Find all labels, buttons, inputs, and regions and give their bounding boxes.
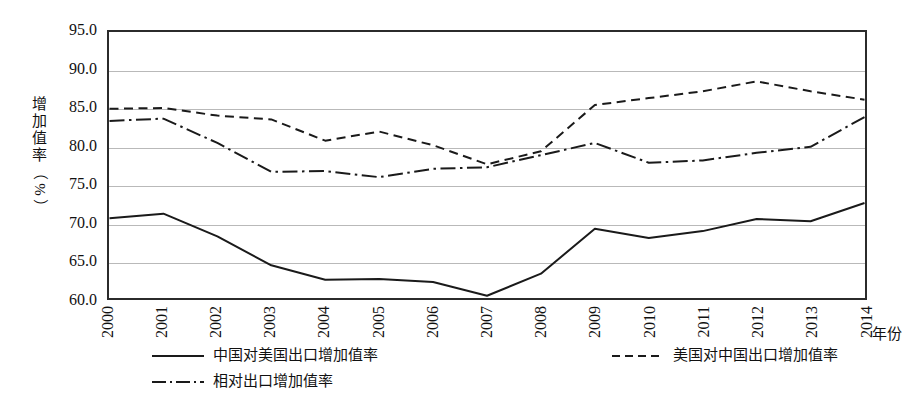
y-axis-tick-label: 90.0 [35,61,97,77]
x-axis-tick-label: 2007 [479,306,495,338]
x-axis-tick-label: 2000 [100,306,116,338]
series-line-1 [109,81,864,164]
x-axis-tick-label: 2003 [262,306,278,338]
legend-label: 中国对美国出口增加值率 [213,348,378,363]
series-line-2 [109,117,864,177]
legend-line-dashed-icon [610,349,666,363]
y-axis-tick-label: 70.0 [35,215,97,231]
y-axis-tick-label: 95.0 [35,22,97,38]
legend-item-china-to-us: 中国对美国出口增加值率 [150,348,378,363]
legend-row: 美国对中国出口增加值率 [610,348,838,363]
y-axis-tick-label: 75.0 [35,176,97,192]
y-axis-tick-label: 80.0 [35,138,97,154]
y-axis-tick-label: 65.0 [35,253,97,269]
x-axis-title: 年份 [872,322,902,343]
x-axis-tick-label: 2010 [642,306,658,338]
x-axis-tick-label: 2013 [804,306,820,338]
chart-legend: 中国对美国出口增加值率 美国对中国出口增加值率 相对出口增加值率 [150,348,790,404]
legend-row: 中国对美国出口增加值率 [150,348,378,363]
x-axis-tick-label: 2009 [587,306,603,338]
series-line-0 [109,203,864,296]
legend-label: 相对出口增加值率 [213,374,333,389]
legend-row: 相对出口增加值率 [150,374,333,389]
series-lines [109,32,865,298]
x-axis-tick-label: 2008 [533,306,549,338]
x-axis-tick-label: 2002 [208,306,224,338]
x-axis-tick-label: 2006 [425,306,441,338]
legend-label: 美国对中国出口增加值率 [673,348,838,363]
y-axis-tick-label: 60.0 [35,292,97,308]
plot-area [107,30,867,300]
x-axis-tick-label: 2012 [750,306,766,338]
y-axis-tick-labels: 95.090.085.080.075.070.065.060.0 [35,0,97,413]
legend-line-solid-icon [150,349,206,363]
y-axis-tick-label: 85.0 [35,99,97,115]
x-axis-tick-label: 2011 [696,306,712,337]
chart-figure: 增 加 值 率 （ % ） 95.090.085.080.075.070.065… [0,0,909,413]
legend-item-us-to-china: 美国对中国出口增加值率 [610,348,838,363]
x-axis-tick-label: 2001 [154,306,170,338]
x-axis-tick-label: 2005 [371,306,387,338]
x-axis-tick-label: 2004 [316,306,332,338]
legend-line-dashdot-icon [150,375,206,389]
legend-item-relative: 相对出口增加值率 [150,374,333,389]
